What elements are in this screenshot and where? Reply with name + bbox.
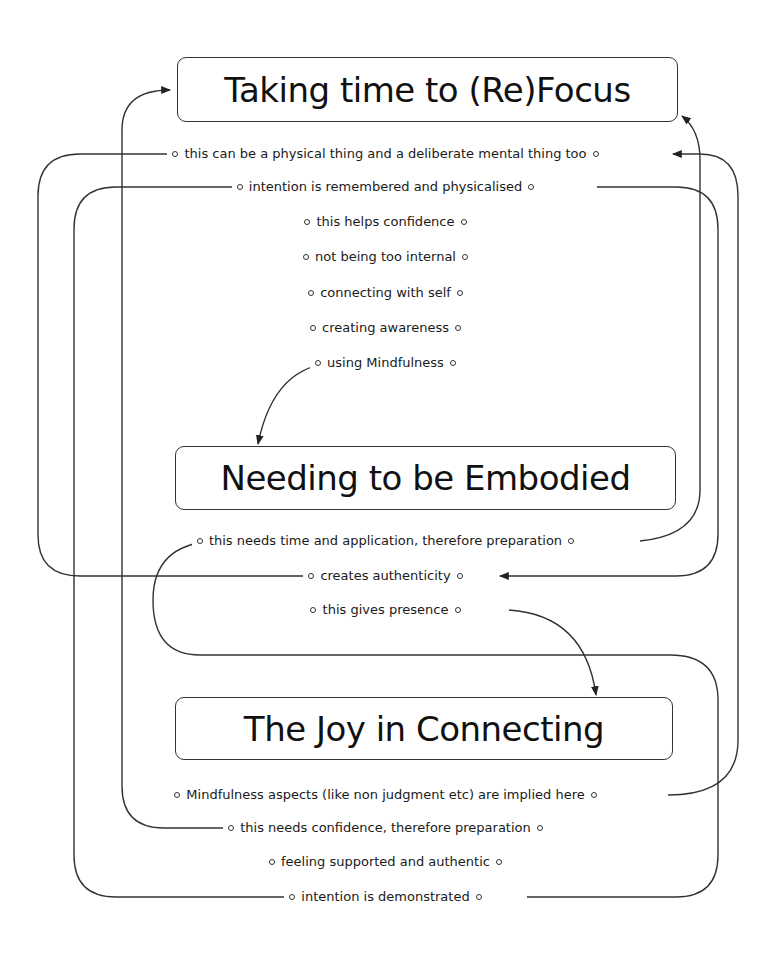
note-item: not being too internal	[0, 249, 771, 265]
connector-dot-icon	[461, 219, 467, 225]
note-item: this helps confidence	[0, 214, 771, 230]
connector-dot-icon	[496, 859, 502, 865]
connector-dot-icon	[308, 573, 314, 579]
link-remembered-to-authenticity	[500, 187, 718, 576]
note-item: creates authenticity	[0, 568, 771, 584]
link-mindfulness-to-embodied	[258, 363, 343, 444]
connector-dot-icon	[269, 859, 275, 865]
connector-dot-icon	[172, 151, 178, 157]
connector-dot-icon	[528, 184, 534, 190]
connector-dot-icon	[462, 254, 468, 260]
connector-dot-icon	[228, 825, 234, 831]
connector-dot-icon	[455, 607, 461, 613]
connector-dot-icon	[455, 325, 461, 331]
theme-title: Taking time to (Re)Focus	[224, 70, 630, 110]
connector-dot-icon	[591, 792, 597, 798]
note-item: this needs time and application, therefo…	[0, 533, 771, 549]
connector-dot-icon	[315, 360, 321, 366]
connector-dot-icon	[304, 219, 310, 225]
note-item: this gives presence	[0, 602, 771, 618]
note-item: creating awareness	[0, 320, 771, 336]
connector-dot-icon	[237, 184, 243, 190]
theme-box-joy: The Joy in Connecting	[175, 697, 673, 760]
connector-dot-icon	[174, 792, 180, 798]
connector-dot-icon	[308, 290, 314, 296]
connector-dot-icon	[303, 254, 309, 260]
note-item: this can be a physical thing and a delib…	[0, 146, 771, 162]
theme-box-refocus: Taking time to (Re)Focus	[177, 57, 678, 122]
connector-dot-icon	[476, 894, 482, 900]
connector-dot-icon	[568, 538, 574, 544]
connector-dot-icon	[289, 894, 295, 900]
connector-dot-icon	[450, 360, 456, 366]
connector-dot-icon	[310, 325, 316, 331]
connector-dot-icon	[457, 290, 463, 296]
connector-dot-icon	[310, 607, 316, 613]
connector-dot-icon	[593, 151, 599, 157]
theme-title: Needing to be Embodied	[221, 458, 631, 498]
connector-dot-icon	[457, 573, 463, 579]
note-item: connecting with self	[0, 285, 771, 301]
connector-dot-icon	[197, 538, 203, 544]
note-item: this needs confidence, therefore prepara…	[0, 820, 771, 836]
note-item: feeling supported and authentic	[0, 854, 771, 870]
link-presence-to-joy	[509, 610, 596, 695]
note-item: Mindfulness aspects (like non judgment e…	[0, 787, 771, 803]
theme-box-embodied: Needing to be Embodied	[175, 446, 676, 510]
note-item: intention is demonstrated	[0, 889, 771, 905]
note-item: using Mindfulness	[0, 355, 771, 371]
note-item: intention is remembered and physicalised	[0, 179, 771, 195]
theme-title: The Joy in Connecting	[244, 709, 604, 749]
connector-dot-icon	[537, 825, 543, 831]
